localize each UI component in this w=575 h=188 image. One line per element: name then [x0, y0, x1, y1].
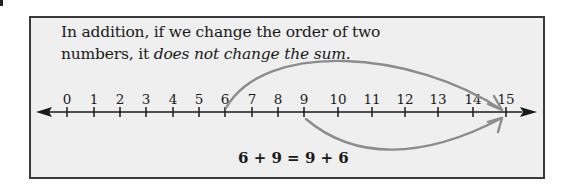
tick-label-9: 9 — [300, 91, 309, 107]
right-arrow-icon — [520, 107, 537, 117]
tick-label-2: 2 — [116, 91, 125, 107]
tick-label-13: 13 — [429, 91, 446, 107]
tick-label-5: 5 — [195, 91, 204, 107]
tick-label-7: 7 — [248, 91, 257, 107]
tick-label-1: 1 — [90, 91, 99, 107]
number-line-diagram: 0123456789101112131415 6 + 9 = 9 + 6 — [0, 0, 575, 188]
tick-label-4: 4 — [169, 91, 178, 107]
jump-9-plus-6-arc — [306, 118, 502, 150]
tick-label-10: 10 — [329, 91, 346, 107]
tick-label-0: 0 — [63, 91, 72, 107]
commutative-equation: 6 + 9 = 9 + 6 — [238, 149, 349, 167]
tick-label-11: 11 — [363, 91, 380, 107]
tick-label-12: 12 — [396, 91, 413, 107]
tick-label-8: 8 — [274, 91, 283, 107]
tick-label-3: 3 — [142, 91, 151, 107]
